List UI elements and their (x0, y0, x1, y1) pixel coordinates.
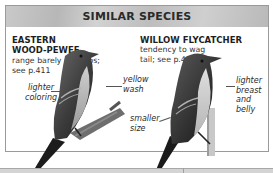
callout-line: breast (236, 86, 262, 96)
willow-flycatcher-illustration-icon (150, 48, 230, 173)
next-section-edge (0, 168, 273, 173)
callout-lighter-breast-and-belly: lighter breast and belly (236, 76, 262, 114)
callout-line: belly (236, 105, 262, 115)
panel-header: SIMILAR SPECIES (6, 6, 268, 27)
species-name-line: WILLOW FLYCATCHER (140, 35, 242, 45)
column-divider (183, 168, 184, 173)
eastern-wood-pewee-illustration-icon (25, 38, 145, 173)
panel-title: SIMILAR SPECIES (83, 10, 192, 23)
callout-line: and (236, 95, 262, 105)
species-name-willow-flycatcher: WILLOW FLYCATCHER (140, 35, 242, 45)
callout-line: lighter (236, 76, 262, 86)
